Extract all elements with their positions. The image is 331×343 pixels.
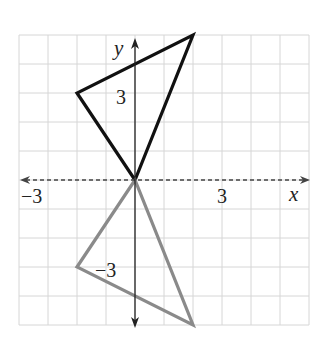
y-tick-label-neg3: −3 <box>95 259 116 281</box>
y-tick-label-3: 3 <box>116 86 126 108</box>
axes <box>20 38 310 328</box>
x-tick-label-3: 3 <box>217 185 227 207</box>
x-axis-label: x <box>288 182 299 206</box>
x-tick-label-neg3: −3 <box>21 185 42 207</box>
y-axis-label: y <box>112 36 124 60</box>
coordinate-plane: y x −3 3 3 −3 <box>0 0 331 343</box>
